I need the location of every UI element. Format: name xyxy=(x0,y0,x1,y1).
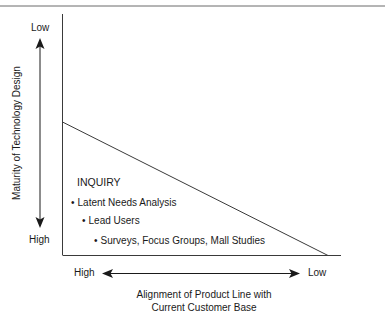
diagram-canvas xyxy=(0,0,387,321)
x-axis-left-label: High xyxy=(74,267,95,279)
region-item-latent-needs: Latent Needs Analysis xyxy=(71,197,176,209)
region-item-lead-users: Lead Users xyxy=(82,215,140,227)
x-axis-title-line1: Alignment of Product Line with xyxy=(136,288,271,301)
y-axis-double-arrow-icon xyxy=(36,38,45,228)
y-axis-top-label: Low xyxy=(31,22,49,34)
region-item-surveys: Surveys, Focus Groups, Mall Studies xyxy=(94,235,265,247)
x-axis-title-line2: Current Customer Base xyxy=(136,301,271,314)
x-axis-double-arrow-icon xyxy=(102,269,300,278)
x-axis-title: Alignment of Product Line with Current C… xyxy=(136,288,271,314)
y-axis-title: Maturity of Technology Design xyxy=(11,66,22,200)
x-axis-right-label: Low xyxy=(308,267,326,279)
region-title: INQUIRY xyxy=(77,176,121,188)
y-axis-bottom-label: High xyxy=(29,234,50,246)
